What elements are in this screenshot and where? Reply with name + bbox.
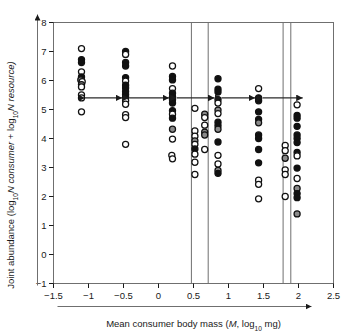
data-point xyxy=(294,123,300,129)
data-point xyxy=(256,109,262,115)
data-point xyxy=(169,100,175,106)
data-point xyxy=(123,101,129,107)
data-point xyxy=(123,63,129,69)
y-tick-label-6: 5 xyxy=(41,104,46,115)
y-tick-label-8: 7 xyxy=(41,46,46,57)
data-point xyxy=(202,115,208,121)
data-point xyxy=(256,181,262,187)
data-series-cluster-1 xyxy=(78,46,85,115)
data-point xyxy=(192,159,198,165)
data-point xyxy=(215,139,221,145)
data-point xyxy=(294,165,300,171)
x-axis-label: Mean consumer body mass (M, log10 mg) xyxy=(106,318,281,332)
data-point xyxy=(256,98,262,104)
data-point xyxy=(256,160,262,166)
x-tick-label-5: 1 xyxy=(226,290,231,301)
data-series-cluster-4 xyxy=(192,105,198,177)
x-tick-label-6: 1.5 xyxy=(257,290,270,301)
data-point xyxy=(169,63,175,69)
y-tick-label-2: 1 xyxy=(41,220,46,231)
y-axis-label: Joint abundance (log10N consumer + log10… xyxy=(5,61,19,288)
vertical-reference-lines xyxy=(191,23,290,284)
data-point xyxy=(215,161,221,167)
data-point xyxy=(78,46,84,52)
data-point xyxy=(294,175,300,181)
data-point xyxy=(282,193,288,199)
data-point xyxy=(294,140,300,146)
y-tick-label-1: 0 xyxy=(41,249,46,260)
x-axis-label-text: Mean consumer body mass (M, log10 mg) xyxy=(106,318,281,332)
data-series-cluster-9 xyxy=(294,102,300,217)
chart-canvas: −1012345678−1.5−1−0.500.511.522.5Joint a… xyxy=(0,0,355,333)
y-tick-label-5: 4 xyxy=(41,133,46,144)
data-series-cluster-5 xyxy=(202,111,208,152)
data-point xyxy=(123,115,129,121)
scatter-plot-figure: −1012345678−1.5−1−0.500.511.522.5Joint a… xyxy=(0,0,355,333)
data-point xyxy=(294,195,300,201)
data-point xyxy=(256,135,262,141)
data-point xyxy=(169,156,175,162)
data-point xyxy=(192,105,198,111)
x-tick-label-1: −1 xyxy=(83,290,94,301)
data-series-cluster-6 xyxy=(215,76,221,177)
data-point xyxy=(169,126,175,132)
x-tick-label-4: 0.5 xyxy=(187,290,200,301)
data-point xyxy=(215,126,221,132)
y-tick-label-7: 6 xyxy=(41,75,46,86)
data-point xyxy=(215,100,221,106)
data-series-cluster-2 xyxy=(123,48,129,147)
data-point xyxy=(215,170,221,176)
data-point xyxy=(215,89,221,95)
x-tick-label-2: −0.5 xyxy=(114,290,133,301)
data-point xyxy=(192,171,198,177)
data-point xyxy=(202,146,208,152)
data-point xyxy=(256,196,262,202)
data-point xyxy=(215,111,221,117)
data-point xyxy=(169,115,175,121)
data-point xyxy=(123,51,129,57)
x-tick-label-8: 2.5 xyxy=(327,290,340,301)
x-axis-ticks: −1.5−1−0.500.511.522.5 xyxy=(44,284,340,301)
data-point xyxy=(294,102,300,108)
data-point xyxy=(123,141,129,147)
y-axis-label-text: Joint abundance (log10N consumer + log10… xyxy=(5,61,19,288)
data-point xyxy=(294,211,300,217)
data-point xyxy=(78,84,84,90)
data-point xyxy=(282,155,288,161)
data-point xyxy=(294,115,300,121)
data-point xyxy=(256,120,262,126)
data-point xyxy=(78,95,84,101)
x-tick-label-3: 0 xyxy=(156,290,161,301)
data-point xyxy=(202,132,208,138)
data-point xyxy=(169,77,175,83)
data-point xyxy=(256,86,262,92)
y-tick-label-9: 8 xyxy=(41,17,46,28)
data-point xyxy=(215,76,221,82)
y-tick-label-3: 2 xyxy=(41,191,46,202)
y-axis-ticks: −1012345678 xyxy=(36,17,54,289)
y-tick-label-4: 3 xyxy=(41,162,46,173)
data-point xyxy=(256,146,262,152)
data-point xyxy=(78,109,84,115)
data-point xyxy=(282,148,288,154)
data-point xyxy=(215,152,221,158)
data-point xyxy=(192,151,198,157)
x-tick-label-0: −1.5 xyxy=(44,290,63,301)
data-point xyxy=(78,59,84,65)
data-point xyxy=(202,122,208,128)
x-tick-label-7: 2 xyxy=(296,290,301,301)
data-series-cluster-3 xyxy=(169,63,176,162)
data-point xyxy=(294,153,300,159)
data-points xyxy=(78,46,300,217)
data-point xyxy=(282,171,288,177)
data-series-cluster-7 xyxy=(256,86,262,202)
data-point xyxy=(169,136,175,142)
